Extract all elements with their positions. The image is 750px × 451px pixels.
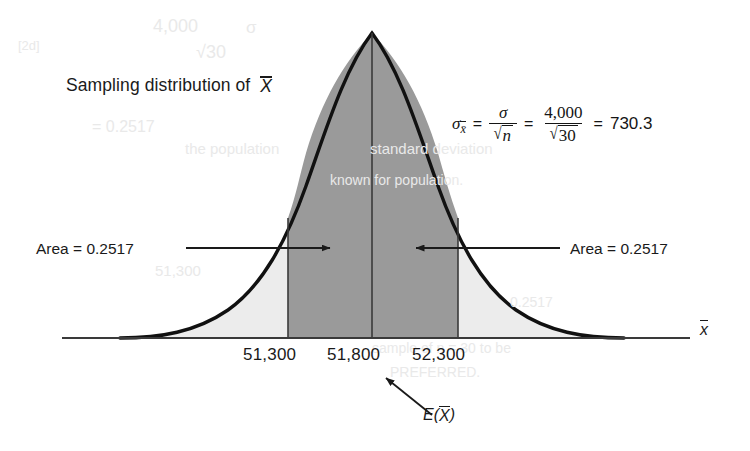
equals-sign-1: = <box>473 115 482 133</box>
expected-value-close: ) <box>450 406 455 423</box>
radicand: 30 <box>558 125 578 144</box>
tick-label-upper: 52,300 <box>412 345 465 365</box>
tick-label-lower: 51,300 <box>243 345 296 365</box>
x-bar-symbol: x <box>700 320 708 338</box>
area-label-right: Area = 0.2517 <box>570 240 668 258</box>
fraction-denominator: √ 30 <box>545 123 581 144</box>
expected-value-open: E( <box>423 406 439 423</box>
formula-lhs: σ x̄ <box>452 114 466 135</box>
fraction-numerator: σ <box>495 104 511 123</box>
radical-glyph: √ <box>550 125 558 144</box>
central-area-shading <box>288 33 458 338</box>
fraction-4000-over-sqrt-30: 4,000 √ 30 <box>540 104 586 144</box>
expected-value-label: E( X ) <box>423 405 455 424</box>
fraction-denominator: √ n <box>489 123 517 144</box>
area-label-left: Area = 0.2517 <box>36 240 134 258</box>
x-bar-subscript: x̄ <box>460 121 465 135</box>
chart-title: Sampling distribution of X <box>66 75 272 96</box>
x-axis-label: x <box>700 320 708 339</box>
square-root-30: √ 30 <box>549 125 577 144</box>
x-bar-letter: X <box>439 408 450 424</box>
x-bar-letter: X <box>260 78 272 96</box>
radical-glyph: √ <box>494 125 502 144</box>
equals-sign-2: = <box>524 115 533 133</box>
chart-title-text: Sampling distribution of <box>66 75 250 95</box>
radicand: n <box>502 125 514 144</box>
tick-label-mean: 51,800 <box>327 345 380 365</box>
square-root-n: √ n <box>493 125 513 144</box>
equals-sign-3: = <box>594 115 603 133</box>
x-bar-letter: x <box>700 322 708 338</box>
fraction-sigma-over-sqrt-n: σ √ n <box>489 104 517 144</box>
x-bar-subscript-letter: x̄ <box>460 123 465 135</box>
standard-error-formula: σ x̄ = σ √ n = 4,000 √ 30 = 730.3 <box>452 104 653 144</box>
fraction-numerator: 4,000 <box>540 104 586 123</box>
standard-error-value: 730.3 <box>610 114 653 134</box>
x-bar-symbol: X <box>260 76 272 95</box>
sampling-distribution-figure <box>0 0 750 451</box>
x-bar-symbol: X <box>439 406 450 424</box>
